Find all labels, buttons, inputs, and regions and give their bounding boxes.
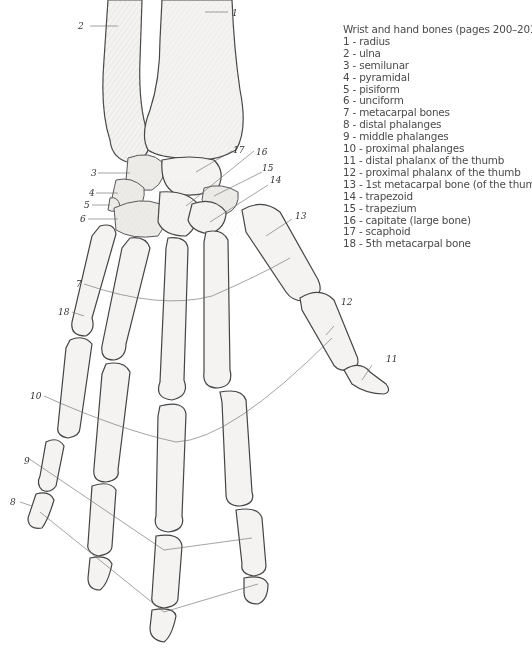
callout-2: 2	[77, 21, 84, 31]
bone-legend: Wrist and hand bones (pages 200–201): 1 …	[343, 24, 532, 250]
legend-item-trapezoid: 14 - trapezoid	[343, 191, 532, 203]
callout-9: 9	[24, 456, 30, 466]
callout-8: 8	[10, 497, 16, 507]
callout-15: 15	[262, 163, 274, 173]
callout-6: 6	[80, 214, 86, 224]
callout-14: 14	[270, 175, 282, 185]
callout-18: 18	[58, 307, 70, 317]
callout-12: 12	[341, 297, 353, 307]
callout-13: 13	[295, 211, 307, 221]
callout-16: 16	[256, 147, 268, 157]
callout-7: 7	[76, 279, 82, 289]
callout-4: 4	[88, 188, 95, 198]
legend-item-proximal-phalanx-thumb: 12 - proximal phalanx of the thumb	[343, 167, 532, 179]
callout-1: 1	[232, 8, 238, 18]
legend-item-ulna: 2 - ulna	[343, 48, 532, 60]
ulna-bone	[103, 0, 150, 163]
legend-item-fifth-metacarpal: 18 - 5th metacarpal bone	[343, 238, 532, 250]
callout-17: 17	[233, 145, 245, 155]
callout-3: 3	[91, 168, 97, 178]
callout-10: 10	[30, 391, 42, 401]
shading-overlay	[30, 200, 390, 650]
radius-bone	[144, 0, 243, 160]
legend-item-trapezium: 15 - trapezium	[343, 203, 532, 215]
callout-11: 11	[386, 354, 397, 364]
legend-item-pyramidal: 4 - pyramidal	[343, 72, 532, 84]
callout-5: 5	[84, 200, 90, 210]
legend-item-semilunar: 3 - semilunar	[343, 60, 532, 72]
legend-item-first-metacarpal: 13 - 1st metacarpal bone (of the thumb)	[343, 179, 532, 191]
